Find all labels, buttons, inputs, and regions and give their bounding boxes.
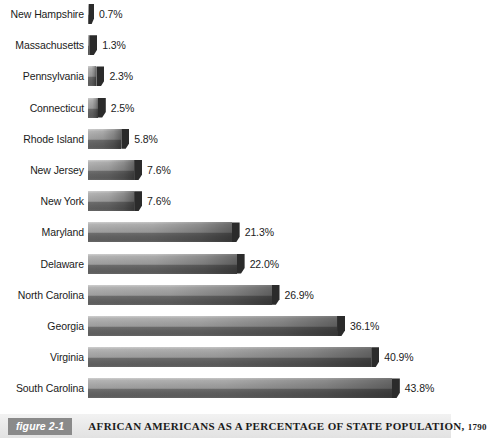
bar-body — [88, 222, 232, 242]
bar-value-label: 2.3% — [109, 64, 133, 88]
bar-tip — [89, 35, 97, 55]
bar-value-label: 7.6% — [147, 189, 171, 213]
bar — [88, 254, 245, 274]
bar-body — [88, 254, 237, 274]
category-label: New Jersey — [0, 158, 84, 182]
bar-tip — [232, 222, 240, 242]
caption-year: 1790 — [468, 422, 487, 432]
bar-row: Georgia36.1% — [0, 314, 451, 338]
bar — [88, 35, 97, 55]
category-label: Maryland — [0, 220, 84, 244]
bar-row: Rhode Island5.8% — [0, 127, 451, 151]
bar — [88, 222, 240, 242]
category-label: Pennsylvania — [0, 64, 84, 88]
bar-value-label: 5.8% — [134, 127, 158, 151]
bar-row: Maryland21.3% — [0, 220, 451, 244]
bar — [88, 316, 345, 336]
bar-row: Delaware22.0% — [0, 252, 451, 276]
category-label: New York — [0, 189, 84, 213]
bar-tip — [272, 285, 280, 305]
bar-value-label: 43.8% — [405, 376, 434, 400]
bar-row: Pennsylvania2.3% — [0, 64, 451, 88]
bar-tip — [392, 378, 400, 398]
bar-value-label: 0.7% — [99, 2, 123, 26]
category-label: Georgia — [0, 314, 84, 338]
category-label: Virginia — [0, 345, 84, 369]
category-label: Connecticut — [0, 96, 84, 120]
bar-body — [88, 66, 96, 86]
bar-value-label: 40.9% — [384, 345, 413, 369]
bar-row: Virginia40.9% — [0, 345, 451, 369]
bar-body — [88, 4, 89, 24]
bar-body — [88, 129, 121, 149]
bar-row: New York7.6% — [0, 189, 451, 213]
bar-value-label: 7.6% — [147, 158, 171, 182]
bar — [88, 129, 129, 149]
bar-body — [88, 378, 392, 398]
bar-body — [88, 35, 89, 55]
bar-value-label: 2.5% — [111, 96, 135, 120]
bar-body — [88, 285, 272, 305]
bar-row: North Carolina26.9% — [0, 283, 451, 307]
bar — [88, 378, 400, 398]
bar-tip — [371, 347, 379, 367]
bar-value-label: 26.9% — [285, 283, 314, 307]
bar-row: New Jersey7.6% — [0, 158, 451, 182]
bar-value-label: 1.3% — [102, 33, 126, 57]
category-label: Rhode Island — [0, 127, 84, 151]
figure-number-badge: figure 2-1 — [8, 418, 72, 435]
caption-main-text: AFRICAN AMERICANS AS A PERCENTAGE OF STA… — [88, 420, 464, 432]
bar-body — [88, 160, 134, 180]
bar — [88, 66, 104, 86]
bar-chart-plot-area: New Hampshire0.7%Massachusetts1.3%Pennsy… — [0, 0, 451, 410]
bar-tip — [134, 191, 142, 211]
bar-row: New Hampshire0.7% — [0, 2, 451, 26]
category-label: South Carolina — [0, 376, 84, 400]
category-label: North Carolina — [0, 283, 84, 307]
category-label: Delaware — [0, 252, 84, 276]
bar-value-label: 36.1% — [350, 314, 379, 338]
bar-row: Connecticut2.5% — [0, 96, 451, 120]
bar-tip — [121, 129, 129, 149]
bar-value-label: 22.0% — [250, 252, 279, 276]
bar-tip — [89, 4, 94, 24]
bar — [88, 4, 94, 24]
figure-caption-text: AFRICAN AMERICANS AS A PERCENTAGE OF STA… — [88, 420, 486, 432]
bar-body — [88, 347, 371, 367]
bar-row: South Carolina43.8% — [0, 376, 451, 400]
bar — [88, 191, 142, 211]
bar-tip — [96, 66, 104, 86]
bar-body — [88, 98, 98, 118]
bar-row: Massachusetts1.3% — [0, 33, 451, 57]
bar-value-label: 21.3% — [245, 220, 274, 244]
bar-body — [88, 191, 134, 211]
bar — [88, 98, 106, 118]
category-label: Massachusetts — [0, 33, 84, 57]
bar-tip — [237, 254, 245, 274]
bar — [88, 285, 280, 305]
bar-body — [88, 316, 337, 336]
figure-caption-bar: figure 2-1 AFRICAN AMERICANS AS A PERCEN… — [0, 414, 451, 438]
category-label: New Hampshire — [0, 2, 84, 26]
bar — [88, 160, 142, 180]
bar-tip — [98, 98, 106, 118]
bar-tip — [134, 160, 142, 180]
bar-tip — [337, 316, 345, 336]
bar — [88, 347, 379, 367]
